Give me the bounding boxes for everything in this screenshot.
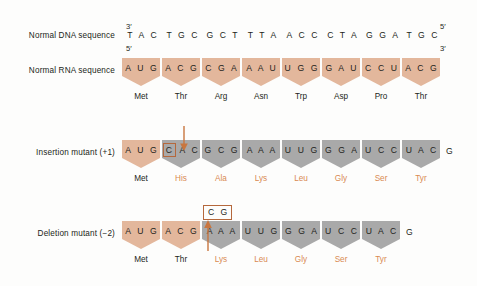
frameshift-mutation-diagram: Normal DNA sequence 3′ 5′ T A C T G C G … [0, 0, 477, 286]
codon-block: A U G [122, 58, 160, 86]
dna-sequence-strip: T A C T G C G C T T T A A C C C T A G G … [122, 30, 442, 40]
insertion-row-label: Insertion mutant (+1) [0, 148, 115, 157]
codon-block: A C G [402, 58, 440, 86]
codon-bases: C G A [203, 58, 239, 73]
codon-block: A U G [122, 140, 160, 168]
amino-acid-label: Ser [322, 255, 360, 264]
amino-acid-label: Met [122, 92, 160, 101]
amino-acid-label: Met [122, 255, 160, 264]
amino-acid-label: Tyr [402, 174, 440, 183]
codon-block: U A C [362, 221, 400, 249]
codon-block: C G A [202, 58, 240, 86]
amino-acid-label: Gly [322, 174, 360, 183]
inserted-base: C [164, 144, 174, 156]
rna-right-end-label: 3′ [440, 44, 446, 53]
codon-block: U C C [362, 140, 400, 168]
codon-block: C C U [362, 58, 400, 86]
codon-bases: A C G [163, 58, 199, 73]
deletion-row-label: Deletion mutant (−2) [0, 229, 115, 238]
codon-bases: A A A [245, 140, 278, 155]
amino-acid-label: Ser [362, 174, 400, 183]
amino-acid-label: Lys [242, 174, 280, 183]
amino-acid-label: Leu [242, 255, 280, 264]
insertion-codon-row: A U G C A C G C G A A A U U G G G A [122, 140, 440, 168]
rna-row-label: Normal RNA sequence [0, 66, 115, 75]
amino-acid-label: Thr [162, 255, 200, 264]
dna-triplet: G C T [202, 30, 242, 40]
rna-amino-acid-row: Met Thr Arg Asn Trp Asp Pro Thr [122, 92, 440, 101]
rna-codon-row: A U G A C G C G A A A U U G G G A U [122, 58, 440, 86]
codon-bases: G C G [203, 140, 240, 155]
codon-block: U C C [322, 221, 360, 249]
dna-triplet: T G C [162, 30, 202, 40]
amino-acid-label: His [162, 174, 200, 183]
codon-block: A A A [242, 140, 280, 168]
amino-acid-label: Thr [402, 92, 440, 101]
codon-bases: A C G [403, 58, 439, 73]
codon-bases: U A C [364, 221, 399, 236]
codon-bases: A U G [123, 58, 159, 73]
codon-block: G G A [282, 221, 320, 249]
dna-row-label: Normal DNA sequence [0, 31, 115, 40]
dna-triplet: A C C [282, 30, 322, 40]
codon-block: G G A [322, 140, 360, 168]
amino-acid-label: Tyr [362, 255, 400, 264]
codon-bases: G G A [323, 140, 359, 155]
codon-bases: U U G [283, 140, 319, 155]
dna-triplet: C T A [322, 30, 362, 40]
amino-acid-label: Asn [242, 92, 280, 101]
codon-block: G A U [322, 58, 360, 86]
codon-block: A A U [242, 58, 280, 86]
dna-triplet: T G C [402, 30, 442, 40]
codon-block: U A C [402, 140, 440, 168]
codon-bases: A C G [163, 221, 199, 236]
codon-bases: U C C [363, 140, 399, 155]
insertion-tail-base: G [446, 146, 453, 156]
dna-triplet: T A C [122, 30, 162, 40]
deleted-bases-box: C G [203, 205, 232, 220]
amino-acid-label: Ala [202, 174, 240, 183]
amino-acid-label: Leu [282, 174, 320, 183]
codon-block: A C G [162, 221, 200, 249]
codon-block: U G G [282, 58, 320, 86]
codon-block: G C G [202, 140, 240, 168]
amino-acid-label: Arg [202, 92, 240, 101]
rna-left-end-label: 5′ [126, 44, 132, 53]
codon-bases: G A U [323, 58, 358, 73]
codon-bases: G G A [283, 221, 319, 236]
amino-acid-label: Asp [322, 92, 360, 101]
dna-triplet: G G A [362, 30, 402, 40]
codon-bases: U G G [283, 58, 320, 73]
amino-acid-label: Gly [282, 255, 320, 264]
codon-bases: C C U [363, 58, 399, 73]
amino-acid-label: Pro [362, 92, 400, 101]
amino-acid-label: Met [122, 174, 160, 183]
codon-block: U U G [282, 140, 320, 168]
insertion-amino-acid-row: Met His Ala Lys Leu Gly Ser Tyr [122, 174, 440, 183]
codon-bases: U U G [243, 221, 279, 236]
codon-bases: U A C [404, 140, 439, 155]
deletion-codon-row: A U G A C G A A A U U G G G A U C C [122, 221, 400, 249]
deletion-arrow-up-icon [202, 219, 214, 251]
codon-bases: A A U [244, 58, 278, 73]
codon-bases: U C C [323, 221, 359, 236]
codon-block: A C G [162, 58, 200, 86]
dna-triplet: T T A [242, 30, 282, 40]
deletion-tail-base: G [406, 227, 413, 237]
codon-block: A U G [122, 221, 160, 249]
insertion-arrow-down-icon [178, 126, 190, 152]
amino-acid-label: Thr [162, 92, 200, 101]
codon-bases: A U G [123, 221, 159, 236]
codon-bases: A U G [123, 140, 159, 155]
amino-acid-label: Trp [282, 92, 320, 101]
amino-acid-label: Lys [202, 255, 240, 264]
codon-block: U U G [242, 221, 280, 249]
deletion-amino-acid-row: Met Thr Lys Leu Gly Ser Tyr [122, 255, 400, 264]
